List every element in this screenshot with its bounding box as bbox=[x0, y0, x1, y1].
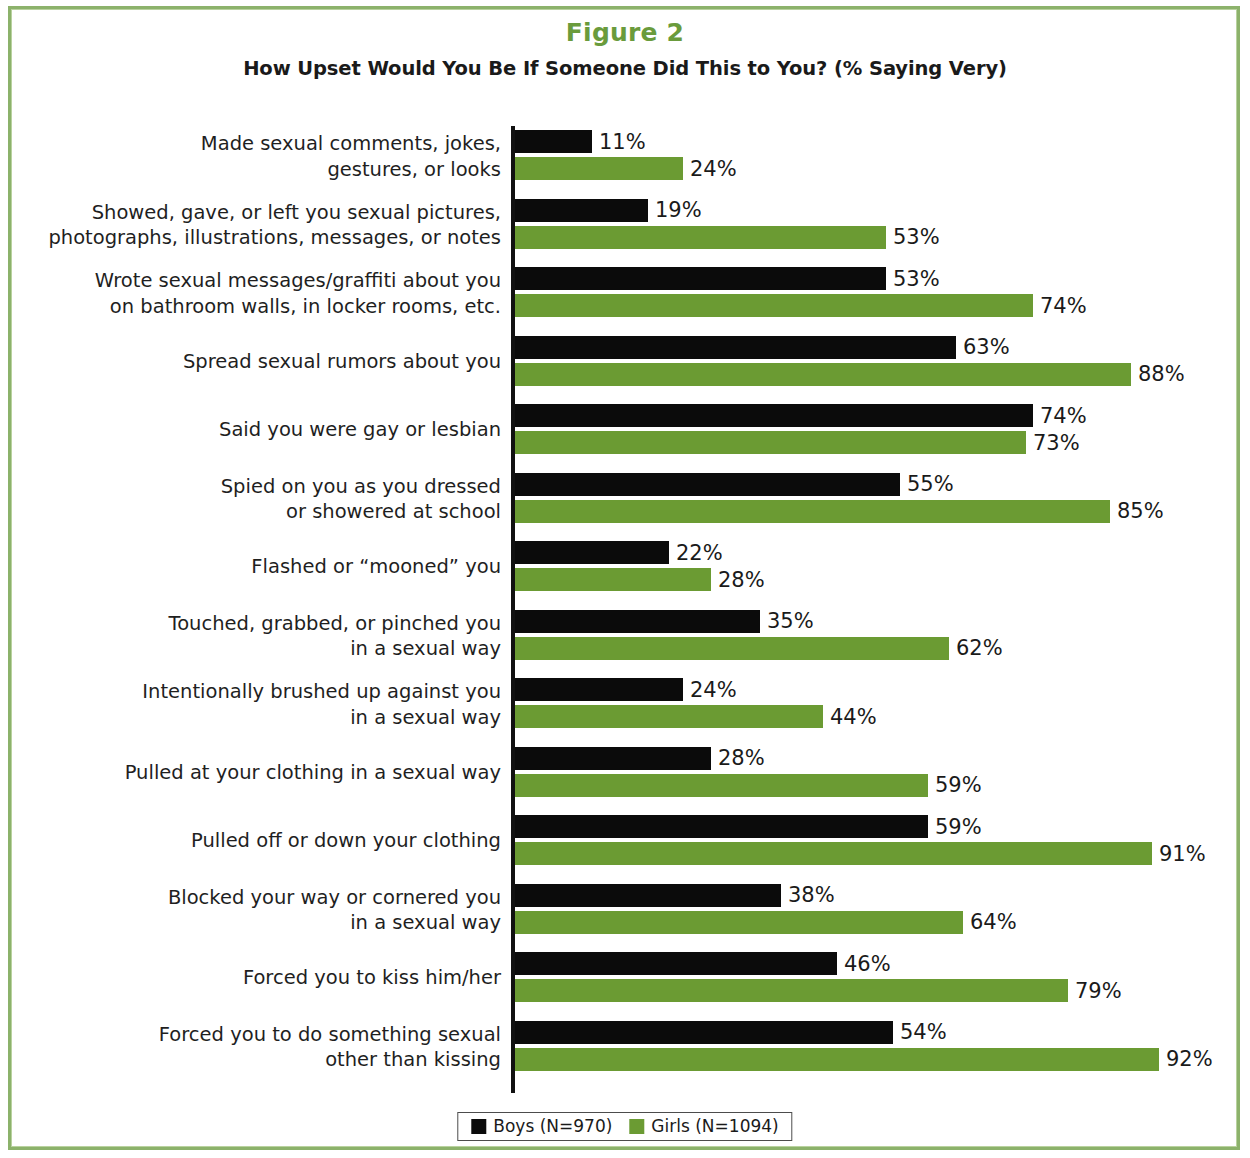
bar-row: Flashed or “mooned” you22%28% bbox=[0, 539, 1250, 595]
category-label: Blocked your way or cornered you in a se… bbox=[31, 884, 501, 935]
bar-row: Intentionally brushed up against you in … bbox=[0, 676, 1250, 732]
bar-value-label-girls: 74% bbox=[1033, 294, 1087, 318]
bar-value-label-girls: 24% bbox=[683, 157, 737, 181]
bar-value-label-girls: 92% bbox=[1159, 1047, 1213, 1071]
bar-value-label-girls: 44% bbox=[823, 705, 877, 729]
bar-group: 53%74% bbox=[515, 265, 1250, 321]
bar-segment-boys bbox=[515, 336, 956, 359]
bar-group: 11%24% bbox=[515, 128, 1250, 184]
bar-girls: 28% bbox=[515, 568, 1250, 591]
bar-value-label-girls: 62% bbox=[949, 636, 1003, 660]
figure-header: Figure 2 How Upset Would You Be If Someo… bbox=[0, 18, 1250, 82]
bar-value-label-boys: 59% bbox=[928, 815, 982, 839]
bar-segment-girls bbox=[515, 1048, 1159, 1071]
bar-group: 28%59% bbox=[515, 745, 1250, 801]
bar-segment-boys bbox=[515, 884, 781, 907]
bar-boys: 19% bbox=[515, 199, 1250, 222]
bar-row: Forced you to do something sexual other … bbox=[0, 1019, 1250, 1075]
bar-value-label-boys: 38% bbox=[781, 883, 835, 907]
bar-value-label-girls: 91% bbox=[1152, 842, 1206, 866]
bar-group: 38%64% bbox=[515, 882, 1250, 938]
bar-value-label-boys: 22% bbox=[669, 541, 723, 565]
category-label: Said you were gay or lesbian bbox=[31, 417, 501, 443]
bar-boys: 24% bbox=[515, 678, 1250, 701]
category-label: Pulled at your clothing in a sexual way bbox=[31, 760, 501, 786]
bar-value-label-girls: 88% bbox=[1131, 362, 1185, 386]
bar-boys: 53% bbox=[515, 267, 1250, 290]
bar-row: Showed, gave, or left you sexual picture… bbox=[0, 197, 1250, 253]
bar-segment-girls bbox=[515, 979, 1068, 1002]
bar-segment-boys bbox=[515, 610, 760, 633]
bar-value-label-boys: 54% bbox=[893, 1020, 947, 1044]
bar-row: Touched, grabbed, or pinched you in a se… bbox=[0, 608, 1250, 664]
bar-segment-girls bbox=[515, 294, 1033, 317]
bar-girls: 44% bbox=[515, 705, 1250, 728]
bar-group: 74%73% bbox=[515, 402, 1250, 458]
bar-boys: 74% bbox=[515, 404, 1250, 427]
bar-value-label-girls: 73% bbox=[1026, 431, 1080, 455]
bar-boys: 55% bbox=[515, 473, 1250, 496]
bar-value-label-boys: 74% bbox=[1033, 404, 1087, 428]
bar-value-label-girls: 79% bbox=[1068, 979, 1122, 1003]
category-label: Wrote sexual messages/graffiti about you… bbox=[31, 268, 501, 319]
bar-value-label-girls: 64% bbox=[963, 910, 1017, 934]
bar-girls: 59% bbox=[515, 774, 1250, 797]
bar-row: Wrote sexual messages/graffiti about you… bbox=[0, 265, 1250, 321]
category-label: Spread sexual rumors about you bbox=[31, 349, 501, 375]
bar-value-label-girls: 28% bbox=[711, 568, 765, 592]
bar-segment-girls bbox=[515, 500, 1110, 523]
bar-group: 35%62% bbox=[515, 608, 1250, 664]
bar-row: Spread sexual rumors about you63%88% bbox=[0, 334, 1250, 390]
bar-segment-girls bbox=[515, 705, 823, 728]
figure-container: Figure 2 How Upset Would You Be If Someo… bbox=[0, 0, 1250, 1158]
chart-legend: Boys (N=970) Girls (N=1094) bbox=[457, 1112, 792, 1141]
figure-subtitle: How Upset Would You Be If Someone Did Th… bbox=[0, 56, 1250, 82]
category-label: Touched, grabbed, or pinched you in a se… bbox=[31, 610, 501, 661]
bar-boys: 22% bbox=[515, 541, 1250, 564]
bar-segment-girls bbox=[515, 637, 949, 660]
bar-value-label-boys: 11% bbox=[592, 130, 646, 154]
bar-boys: 54% bbox=[515, 1021, 1250, 1044]
bar-segment-girls bbox=[515, 226, 886, 249]
bar-value-label-boys: 19% bbox=[648, 198, 702, 222]
bar-value-label-boys: 24% bbox=[683, 678, 737, 702]
category-label: Spied on you as you dressed or showered … bbox=[31, 473, 501, 524]
bar-row: Forced you to kiss him/her46%79% bbox=[0, 950, 1250, 1006]
bar-group: 55%85% bbox=[515, 471, 1250, 527]
legend-item-girls: Girls (N=1094) bbox=[629, 1117, 778, 1135]
bar-segment-boys bbox=[515, 747, 711, 770]
bar-girls: 88% bbox=[515, 363, 1250, 386]
figure-label: Figure 2 bbox=[0, 18, 1250, 48]
bar-segment-boys bbox=[515, 1021, 893, 1044]
bar-segment-boys bbox=[515, 952, 837, 975]
category-label: Pulled off or down your clothing bbox=[31, 828, 501, 854]
bar-boys: 11% bbox=[515, 130, 1250, 153]
bar-girls: 24% bbox=[515, 157, 1250, 180]
bar-boys: 35% bbox=[515, 610, 1250, 633]
bar-segment-girls bbox=[515, 842, 1152, 865]
bar-group: 19%53% bbox=[515, 197, 1250, 253]
category-label: Showed, gave, or left you sexual picture… bbox=[31, 199, 501, 250]
bar-segment-girls bbox=[515, 774, 928, 797]
bar-row: Pulled at your clothing in a sexual way2… bbox=[0, 745, 1250, 801]
bar-segment-girls bbox=[515, 911, 963, 934]
category-label: Intentionally brushed up against you in … bbox=[31, 679, 501, 730]
bar-value-label-boys: 55% bbox=[900, 472, 954, 496]
bar-segment-boys bbox=[515, 541, 669, 564]
legend-swatch-boys-icon bbox=[471, 1119, 486, 1134]
bar-value-label-girls: 85% bbox=[1110, 499, 1164, 523]
bar-girls: 79% bbox=[515, 979, 1250, 1002]
bar-boys: 59% bbox=[515, 815, 1250, 838]
bar-boys: 38% bbox=[515, 884, 1250, 907]
bar-girls: 62% bbox=[515, 637, 1250, 660]
bar-girls: 73% bbox=[515, 431, 1250, 454]
bar-value-label-girls: 59% bbox=[928, 773, 982, 797]
bar-segment-boys bbox=[515, 678, 683, 701]
legend-item-boys: Boys (N=970) bbox=[471, 1117, 612, 1135]
bar-segment-girls bbox=[515, 157, 683, 180]
bar-segment-girls bbox=[515, 431, 1026, 454]
bar-segment-boys bbox=[515, 473, 900, 496]
legend-swatch-girls-icon bbox=[629, 1119, 644, 1134]
bar-row: Spied on you as you dressed or showered … bbox=[0, 471, 1250, 527]
bar-row: Blocked your way or cornered you in a se… bbox=[0, 882, 1250, 938]
